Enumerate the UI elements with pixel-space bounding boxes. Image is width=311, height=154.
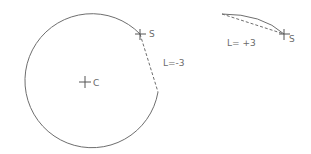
right-figure: S L= +3 xyxy=(222,14,295,48)
length-label-left: L=-3 xyxy=(163,58,185,68)
center-crosshair-icon xyxy=(79,76,91,88)
length-label-right: L= +3 xyxy=(227,38,256,48)
dashed-chord-left xyxy=(140,34,158,92)
diagram-canvas: C S L=-3 S L= +3 xyxy=(0,0,311,154)
left-figure: C S L=-3 xyxy=(25,14,185,148)
start-label-left: S xyxy=(149,29,155,39)
center-label: C xyxy=(93,78,99,88)
dashed-chord-right xyxy=(222,14,284,34)
start-label-right: S xyxy=(289,34,295,44)
